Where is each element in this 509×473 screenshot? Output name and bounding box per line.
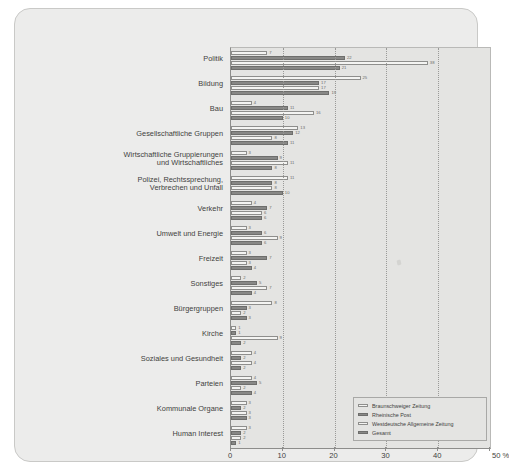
category-label: Wirtschaftliche Gruppierungen und Wirtsc… [55, 151, 223, 168]
bar [231, 76, 361, 80]
axis-tick-label: 10 [278, 451, 286, 460]
bar-value-label: 7 [269, 286, 271, 290]
bar [231, 226, 247, 230]
bar-value-label: 3 [249, 261, 251, 265]
bar [231, 236, 278, 240]
bar [231, 326, 236, 330]
bar [231, 406, 241, 410]
bar-value-label: 2 [243, 406, 245, 410]
bar [231, 441, 236, 445]
bar-value-label: 2 [243, 386, 245, 390]
bar-value-label: 11 [290, 141, 294, 145]
bar-value-label: 7 [269, 256, 271, 260]
category-label: Verkehr [55, 205, 223, 214]
bar-group: 39118 [231, 151, 490, 170]
bar-value-label: 8 [274, 136, 276, 140]
bar [231, 336, 278, 340]
bar [231, 351, 252, 355]
category-axis-labels: PolitikBildungBauGesellschaftliche Grupp… [57, 47, 227, 449]
bar-value-label: 3 [249, 226, 251, 230]
bar-value-label: 3 [249, 426, 251, 430]
bar [231, 391, 252, 395]
bar [231, 211, 262, 215]
legend-label: Westdeutsche Allgemeine Zeitung [372, 421, 453, 427]
bar-value-label: 6 [264, 241, 266, 245]
legend-item: Braunschweiger Zeitung [358, 401, 482, 410]
bar-value-label: 2 [243, 341, 245, 345]
bar [231, 151, 247, 155]
bar [231, 241, 262, 245]
value-axis: 50 % 010203040 [230, 451, 491, 467]
bar-group: 4111610 [231, 101, 490, 120]
category-label: Kommunale Organe [55, 405, 223, 414]
bar-value-label: 2 [243, 276, 245, 280]
bar-value-label: 38 [430, 61, 435, 65]
bar [231, 291, 252, 295]
legend-label: Rheinische Post [372, 412, 411, 418]
bar-value-label: 2 [243, 366, 245, 370]
bar [231, 131, 293, 135]
bar-value-label: 3 [249, 316, 251, 320]
bar-value-label: 17 [321, 86, 326, 90]
category-label: Polizei, Rechtssprechung, Verbrechen und… [55, 176, 223, 193]
bar-value-label: 2 [243, 311, 245, 315]
bar-value-label: 4 [254, 351, 256, 355]
bar [231, 276, 241, 280]
category-label: Gesellschaftliche Gruppen [55, 130, 223, 139]
bar [231, 116, 283, 120]
bar-value-label: 3 [249, 306, 251, 310]
bar [231, 101, 252, 105]
bar-group: 1192 [231, 326, 490, 345]
bar [231, 51, 267, 55]
bar-value-label: 3 [249, 251, 251, 255]
bar-value-label: 11 [290, 106, 294, 110]
category-label: Bürgergruppen [55, 305, 223, 314]
axis-tick-mark [489, 447, 490, 451]
bar [231, 191, 283, 195]
category-label: Politik [55, 55, 223, 64]
bar [231, 356, 241, 360]
plot-area: 7223821251717194111610131281139118118810… [230, 47, 491, 449]
bar [231, 176, 288, 180]
bar-group: 8323 [231, 301, 490, 320]
category-label: Bau [55, 105, 223, 114]
bar [231, 386, 241, 390]
bar-value-label: 9 [280, 336, 282, 340]
bar [231, 416, 247, 420]
bar-value-label: 1 [238, 441, 240, 445]
bar-value-label: 8 [274, 186, 276, 190]
bar [231, 376, 252, 380]
gridline-10 [283, 48, 284, 448]
legend-swatch [358, 413, 368, 416]
bar-value-label: 10 [285, 116, 290, 120]
bar-value-label: 4 [254, 266, 256, 270]
bar [231, 281, 257, 285]
category-label: Parteien [55, 380, 223, 389]
bar-value-label: 12 [295, 131, 300, 135]
bar-group: 4242 [231, 351, 490, 370]
axis-tick-label: 40 [433, 451, 441, 460]
gridline-40 [438, 48, 439, 448]
bar-value-label: 4 [254, 361, 256, 365]
bar-group: 1312811 [231, 126, 490, 145]
bar-group: 118810 [231, 176, 490, 195]
bar-rows-container: 7223821251717194111610131281139118118810… [231, 48, 490, 448]
category-label: Human Interest [55, 430, 223, 439]
category-label: Umwelt und Energie [55, 230, 223, 239]
bar [231, 86, 319, 90]
legend-item: Westdeutsche Allgemeine Zeitung [358, 419, 482, 428]
bar [231, 126, 298, 130]
bar-group: 3696 [231, 226, 490, 245]
bar-value-label: 2 [243, 436, 245, 440]
bar-value-label: 3 [249, 151, 251, 155]
bar [231, 111, 314, 115]
bar-value-label: 2 [243, 356, 245, 360]
bar-value-label: 4 [254, 291, 256, 295]
bar-group: 4766 [231, 201, 490, 220]
bar [231, 366, 241, 370]
bar [231, 206, 267, 210]
bar [231, 331, 236, 335]
legend-item: Rheinische Post [358, 410, 482, 419]
bar [231, 266, 252, 270]
bar [231, 141, 288, 145]
